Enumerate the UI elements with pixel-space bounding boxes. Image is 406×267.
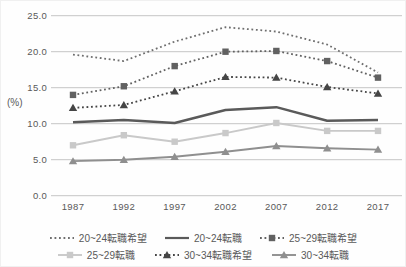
legend-swatch-gray-triangle-icon [271, 250, 297, 260]
plot-area [1, 1, 406, 213]
y-axis-unit-label: (%) [7, 97, 23, 108]
series-20~24転職 [73, 107, 378, 123]
legend-item-20-24-tenshoku-kibo: 20~24転職希望 [49, 230, 147, 245]
y-axis-tick-label: 10.0 [1, 118, 47, 129]
x-axis-tick-label: 1987 [51, 201, 95, 212]
legend-swatch-dotted-triangle-icon [154, 250, 180, 260]
legend-label: 30~34転職希望 [184, 247, 252, 262]
legend-item-25-29-tenshoku: 25~29転職 [57, 247, 135, 262]
x-axis-tick-label: 1992 [102, 201, 146, 212]
series-30~34転職希望 [69, 73, 382, 111]
y-axis-tick-label: 15.0 [1, 82, 47, 93]
legend-label: 30~34転職 [301, 247, 349, 262]
legend-swatch-light-square-icon [57, 250, 83, 260]
y-axis-tick-label: 25.0 [1, 10, 47, 21]
series-30~34転職 [69, 142, 382, 164]
legend-swatch-dotted-line-icon [49, 233, 75, 243]
legend-label: 20~24転職希望 [79, 230, 147, 245]
legend-swatch-dotted-square-icon [259, 233, 285, 243]
x-axis-tick-label: 2012 [305, 201, 349, 212]
y-axis-tick-label: 0.0 [1, 190, 47, 201]
line-chart-figure: 25.0 20.0 15.0 10.0 5.0 0.0 (%) 1987 199… [0, 0, 406, 267]
legend-label: 25~29転職 [87, 247, 135, 262]
legend-item-30-34-tenshoku-kibo: 30~34転職希望 [154, 247, 252, 262]
legend-swatch-solid-line-icon [164, 233, 190, 243]
legend-label: 25~29転職希望 [289, 230, 357, 245]
legend-row-2: 25~29転職 30~34転職希望 30~34転職 [1, 247, 405, 262]
legend-item-25-29-tenshoku-kibo: 25~29転職希望 [259, 230, 357, 245]
x-axis-tick-label: 2007 [254, 201, 298, 212]
y-axis-tick-label: 5.0 [1, 154, 47, 165]
legend-item-20-24-tenshoku: 20~24転職 [164, 230, 242, 245]
legend-label: 20~24転職 [194, 230, 242, 245]
x-axis-tick-label: 2002 [204, 201, 248, 212]
y-axis-tick-label: 20.0 [1, 46, 47, 57]
x-axis-tick-label: 2017 [356, 201, 400, 212]
legend-row-1: 20~24転職希望 20~24転職 25~29転職希望 [1, 230, 405, 245]
legend-item-30-34-tenshoku: 30~34転職 [271, 247, 349, 262]
x-axis-tick-label: 1997 [153, 201, 197, 212]
